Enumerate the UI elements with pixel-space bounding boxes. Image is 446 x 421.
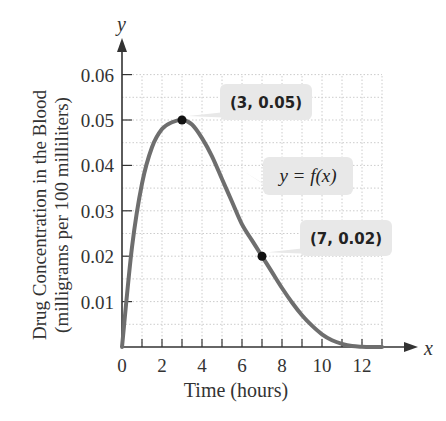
x-tick-label: 8 — [277, 355, 287, 376]
y-axis-symbol: y — [115, 13, 126, 36]
chart: 0246810120.010.020.030.040.050.06 (3, 0.… — [0, 0, 446, 421]
y-tick-label: 0.02 — [81, 246, 114, 267]
y-tick-label: 0.06 — [81, 65, 114, 86]
x-tick-label: 6 — [237, 355, 247, 376]
y-tick-label: 0.01 — [81, 292, 114, 313]
x-tick-label: 4 — [197, 355, 207, 376]
point-7 — [258, 252, 267, 261]
annotation-function: y = f(x) — [277, 165, 336, 187]
annotation-peak: (3, 0.05) — [230, 94, 302, 112]
x-tick-label: 0 — [117, 355, 127, 376]
x-axis-symbol: x — [423, 337, 433, 359]
x-tick-label: 2 — [157, 355, 167, 376]
x-axis-label: Time (hours) — [184, 379, 288, 402]
x-tick-label: 12 — [353, 355, 372, 376]
y-axis-label-line1: Drug Concentration in the Blood — [29, 89, 50, 340]
y-tick-label: 0.05 — [81, 110, 114, 131]
annotation-point: (7, 0.02) — [310, 230, 382, 248]
peak-point — [178, 116, 187, 125]
y-tick-label: 0.04 — [81, 155, 115, 176]
annotations: (3, 0.05)y = f(x)(7, 0.02) — [178, 84, 393, 261]
y-tick-label: 0.03 — [81, 201, 114, 222]
y-axis-label-line2: (milligrams per 100 milliliters) — [51, 97, 73, 333]
x-tick-label: 10 — [313, 355, 332, 376]
y-axis-arrow-icon — [117, 38, 127, 52]
x-axis-arrow-icon — [404, 342, 418, 352]
